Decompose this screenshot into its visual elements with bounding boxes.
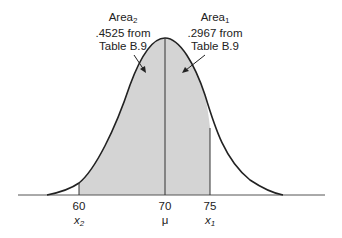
area1-value: .2967 from xyxy=(180,27,250,40)
area1-label: Area1 .2967 from Table B.9 xyxy=(180,11,250,53)
area1-subscript: 1 xyxy=(225,16,229,25)
symbol-x2-sub: 2 xyxy=(80,219,84,228)
area1-source: Table B.9 xyxy=(180,40,250,53)
symbol-x1-sub: 1 xyxy=(211,219,215,228)
symbol-x1: x1 xyxy=(195,214,225,228)
symbol-mu-base: μ xyxy=(162,214,169,226)
area2-value: .4525 from xyxy=(88,27,158,40)
tick-60: 60 xyxy=(64,200,94,212)
symbol-mu: μ xyxy=(150,214,180,226)
area2-subscript: 2 xyxy=(133,16,137,25)
normal-curve-diagram: Area2 .4525 from Table B.9 Area1 .2967 f… xyxy=(0,0,342,238)
tick-75: 75 xyxy=(195,200,225,212)
area2-name: Area xyxy=(109,11,133,23)
tick-70: 70 xyxy=(150,200,180,212)
area2-source: Table B.9 xyxy=(88,40,158,53)
area1-name: Area xyxy=(201,11,225,23)
area2-label: Area2 .4525 from Table B.9 xyxy=(88,11,158,53)
symbol-x2: x2 xyxy=(64,214,94,228)
